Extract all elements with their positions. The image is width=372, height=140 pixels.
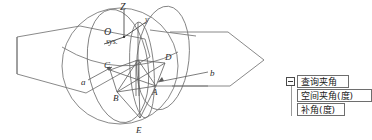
vector-b-line — [158, 72, 208, 82]
right-connector — [150, 30, 196, 36]
screenshot-root: Z y O sys. C a B A D b E 查询夹角 空间夹角(度) 补角… — [0, 0, 372, 140]
angle-query-tree: 查询夹角 空间夹角(度) 补角(度) — [286, 74, 372, 122]
great-circle-two — [132, 4, 195, 113]
construction-lines — [110, 22, 165, 118]
tree-node-supplementary-angle[interactable]: 补角(度) — [297, 102, 345, 116]
origin-point — [123, 36, 125, 38]
geometry-figure: Z y O sys. C a B A D b E — [0, 0, 272, 140]
geometry-figure-svg: Z y O sys. C a B A D b E — [0, 0, 272, 140]
label-y: y — [144, 15, 149, 24]
label-point-C: C — [104, 60, 111, 70]
right-polygon — [170, 32, 264, 86]
tree-node-spatial-angle[interactable]: 空间夹角(度) — [297, 88, 372, 102]
label-origin-subscript: sys. — [106, 37, 118, 46]
tree-node-spatial-angle-label[interactable]: 空间夹角(度) — [297, 89, 372, 102]
label-point-B: B — [113, 93, 119, 103]
tree-node-root-label[interactable]: 查询夹角 — [297, 75, 349, 88]
label-point-a: a — [81, 77, 86, 87]
equator-arc — [62, 47, 178, 66]
collapse-icon[interactable] — [286, 77, 295, 86]
label-point-b: b — [210, 68, 215, 78]
tree-node-supplementary-angle-label[interactable]: 补角(度) — [297, 103, 345, 116]
label-origin: O — [104, 26, 111, 37]
label-point-E: E — [135, 125, 142, 135]
label-point-D: D — [164, 52, 172, 62]
label-z: Z — [120, 1, 126, 12]
tree-node-root[interactable]: 查询夹角 — [286, 74, 349, 88]
label-point-A: A — [151, 87, 158, 97]
